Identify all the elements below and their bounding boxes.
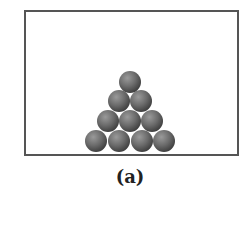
sphere (119, 71, 141, 93)
sphere (141, 110, 163, 132)
sphere (97, 110, 119, 132)
sphere (85, 130, 107, 152)
sphere (119, 110, 141, 132)
sphere (108, 90, 130, 112)
sphere (153, 130, 175, 152)
sphere (108, 130, 130, 152)
figure-label: (a) (0, 166, 252, 187)
sphere (130, 90, 152, 112)
sphere (131, 130, 153, 152)
